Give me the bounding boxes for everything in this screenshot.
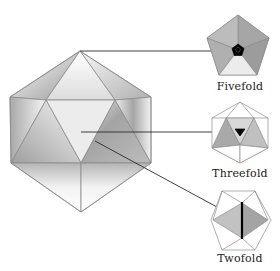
twofold-icon (211, 191, 271, 250)
icosahedron-icon (10, 51, 151, 212)
threefold-icon (212, 102, 268, 163)
symmetry-diagram (0, 0, 280, 271)
fivefold-icon (207, 15, 269, 75)
twofold-label: Twofold (205, 253, 275, 265)
fivefold-label: Fivefold (205, 81, 275, 93)
threefold-label: Threefold (205, 168, 275, 180)
